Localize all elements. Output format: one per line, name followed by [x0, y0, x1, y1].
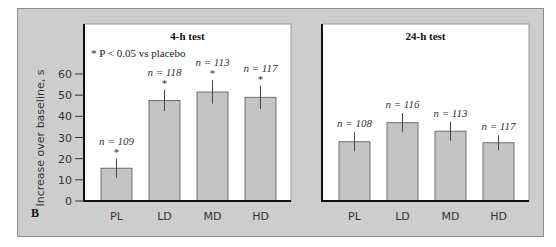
bar-md	[197, 92, 228, 201]
x-tick-label: PL	[110, 210, 124, 223]
sample-size-label: n = 117	[243, 62, 278, 74]
y-tick-label: 60	[58, 68, 72, 81]
x-tick-label: LD	[157, 210, 172, 223]
bar-ld	[149, 100, 180, 201]
significance-marker: *	[210, 67, 216, 79]
y-tick-label: 50	[58, 89, 72, 102]
y-tick-label: 20	[58, 153, 72, 166]
x-tick-label: HD	[490, 210, 507, 223]
sample-size-label: n = 109	[99, 135, 134, 147]
significance-footnote: * P < 0.05 vs placebo	[91, 47, 186, 59]
bar-ld	[387, 123, 418, 201]
panel-title: 4-h test	[170, 30, 205, 42]
sample-size-label: n = 118	[147, 66, 182, 78]
x-tick-label: PL	[348, 210, 362, 223]
bar-chart-figure: 4-h test* P < 0.05 vs placebo*n = 109PL*…	[0, 0, 556, 247]
significance-marker: *	[114, 146, 120, 158]
bar-hd	[483, 143, 514, 201]
y-tick-label: 30	[58, 132, 72, 145]
x-tick-label: LD	[395, 210, 410, 223]
y-tick-label: 40	[58, 110, 72, 123]
y-tick-label: 0	[65, 195, 72, 208]
panel-title: 24-h test	[405, 30, 445, 42]
sample-size-label: n = 113	[433, 107, 468, 119]
bar-hd	[245, 97, 276, 201]
sample-size-label: n = 117	[481, 120, 516, 132]
figure-panel-label: B	[31, 206, 39, 220]
y-axis-label: Increase over baseline, s	[34, 69, 47, 206]
x-tick-label: HD	[252, 210, 269, 223]
significance-marker: *	[162, 77, 168, 89]
significance-marker: *	[258, 73, 264, 85]
x-tick-label: MD	[204, 210, 222, 223]
sample-size-label: n = 113	[195, 56, 230, 68]
x-tick-label: MD	[442, 210, 460, 223]
sample-size-label: n = 108	[337, 117, 372, 129]
y-tick-label: 10	[58, 174, 72, 187]
sample-size-label: n = 116	[385, 98, 420, 110]
bar-md	[435, 131, 466, 201]
